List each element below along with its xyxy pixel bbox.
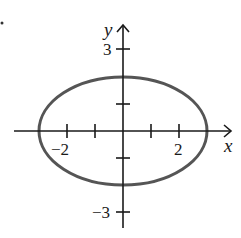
- x-tick-label-neg2: −2: [51, 140, 69, 159]
- y-tick-label-neg3: −3: [92, 203, 110, 222]
- y-tick-label-3: 3: [103, 40, 112, 59]
- y-axis-label: y: [102, 19, 113, 40]
- ellipse-plot: y x 3 −3 −2 2: [0, 0, 241, 238]
- stray-dot: [1, 22, 4, 25]
- x-tick-label-2: 2: [174, 140, 183, 159]
- x-axis-label: x: [223, 135, 233, 156]
- y-axis: [116, 25, 130, 228]
